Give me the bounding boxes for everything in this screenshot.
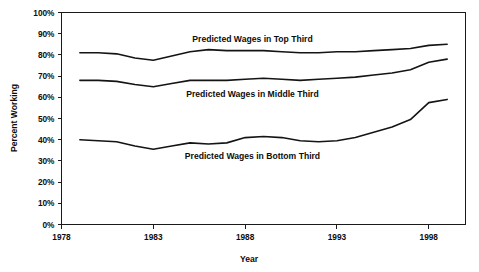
- y-tick-label: 30%: [38, 156, 55, 166]
- y-tick-label: 10%: [38, 198, 55, 208]
- y-tick-label: 40%: [38, 135, 55, 145]
- y-tick-label: 80%: [38, 50, 55, 60]
- x-tick-label: 1998: [420, 232, 439, 242]
- x-axis-title: Year: [240, 254, 259, 264]
- x-tick-label: 1993: [328, 232, 347, 242]
- y-tick-label: 70%: [38, 71, 55, 81]
- series-annotation-0: Predicted Wages in Top Third: [192, 34, 312, 44]
- y-axis-title: Percent Working: [9, 84, 19, 152]
- y-tick-label: 90%: [38, 29, 55, 39]
- x-tick-label: 1983: [144, 232, 163, 242]
- line-chart: 0%10%20%30%40%50%60%70%80%90%100% 197819…: [0, 0, 479, 272]
- x-tick-label: 1978: [52, 232, 71, 242]
- y-tick-label: 100%: [33, 8, 55, 18]
- y-tick-label: 60%: [38, 92, 55, 102]
- y-tick-label: 0%: [43, 220, 56, 230]
- y-tick-label: 20%: [38, 177, 55, 187]
- y-tick-label: 50%: [38, 114, 55, 124]
- chart-container: 0%10%20%30%40%50%60%70%80%90%100% 197819…: [0, 0, 479, 272]
- series-annotation-2: Predicted Wages in Bottom Third: [185, 151, 320, 161]
- series-annotation-1: Predicted Wages in Middle Third: [186, 89, 318, 99]
- x-tick-label: 1988: [236, 232, 255, 242]
